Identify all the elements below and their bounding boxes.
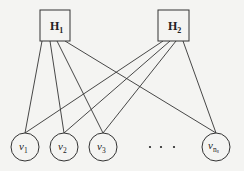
node-v2: v2: [50, 133, 78, 161]
edge-h2-vns: [183, 41, 216, 133]
edge-h1-v1: [25, 41, 42, 133]
edge-h2-v1: [25, 41, 163, 133]
ellipsis-dot: [160, 146, 162, 148]
ellipsis-dot: [173, 146, 175, 148]
ellipsis-dot: [149, 146, 151, 148]
hub-h2: H2: [158, 10, 189, 41]
hub-h1: H1: [40, 10, 70, 41]
node-vns: vns: [202, 133, 230, 161]
node-v3: v3: [89, 133, 117, 161]
bipartite-diagram: H1 H2 v1 v2 v3 vns: [0, 0, 244, 171]
edge-h2-v3: [103, 41, 176, 133]
edge-h1-v2: [50, 41, 64, 133]
node-v1: v1: [11, 133, 39, 161]
ellipsis: [149, 146, 175, 148]
edge-h1-vns: [65, 41, 216, 133]
edges: [25, 41, 216, 133]
